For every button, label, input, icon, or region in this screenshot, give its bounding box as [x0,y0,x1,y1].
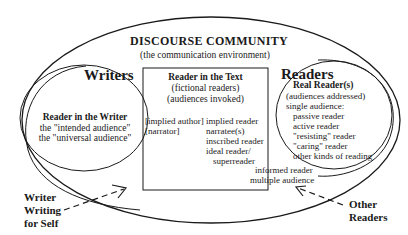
text-box-right-item: ideal reader/ [206,147,251,156]
other-readers-label: Other [349,199,377,210]
text-box-bottom-item: informed reader [255,166,313,175]
readers-inner-title: Real Reader(s) [293,81,353,91]
text-box-title: Reader in the Text [143,73,268,83]
text-box-right-item: superreader [213,157,255,166]
writer-self-label: Writing [24,205,61,216]
writer-self-label: Writer [24,192,56,203]
writer-self-label: for Self [24,218,58,229]
text-box-right-item: inscribed reader [206,137,264,146]
community-title: DISCOURSE COMMUNITY [130,35,280,47]
writers-heading: Writers [84,68,134,83]
text-box-right-item: narratee(s) [206,127,244,136]
writer-line: the "universal audience" [30,134,140,144]
text-box-left-item: [implied author] [145,117,204,126]
readers-item: "resisting" reader [293,132,356,141]
community-subtitle: (the communication environment) [130,51,280,61]
readers-item: passive reader [293,112,344,121]
text-box-sub2: (audiences invoked) [143,95,268,105]
writer-self-arrowhead [112,185,126,198]
text-box-sub1: (fictional readers) [143,84,268,94]
readers-item: active reader [293,122,339,131]
readers-sub: (audiences addressed) [286,92,365,101]
readers-item: "caring" reader [293,142,348,151]
other-readers-label: Readers [349,212,388,223]
readers-item: other kinds of reading [293,152,372,161]
text-box-right-item: implied reader [206,117,258,126]
writer-inner-title: Reader in the Writer [30,113,140,123]
text-box-left-item: [narrator] [145,127,179,136]
text-box-bottom-item: multiple audience [250,176,314,185]
readers-single-label: single audience: [286,102,344,111]
